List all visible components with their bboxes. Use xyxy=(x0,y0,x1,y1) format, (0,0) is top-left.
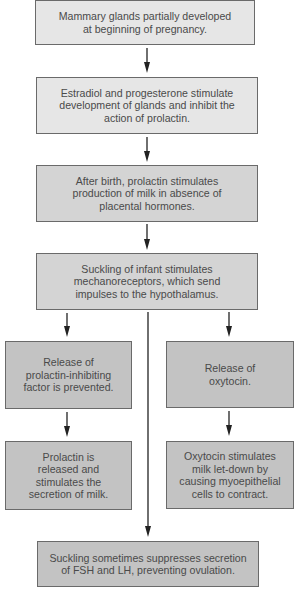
node-text: Suckling of infant stimulates mechanorec… xyxy=(74,263,221,301)
node-text: Release of prolactin-inhibiting factor i… xyxy=(23,356,113,394)
node-text: Release of oxytocin. xyxy=(205,362,256,387)
node-prolactin-released: Prolactin is released and stimulates the… xyxy=(5,441,132,510)
node-text: Estradiol and progesterone stimulate dev… xyxy=(59,87,235,125)
arrowhead-n1-n2 xyxy=(144,62,150,73)
node-text: Oxytocin stimulates milk let-down by cau… xyxy=(179,450,280,500)
node-oxytocin-letdown: Oxytocin stimulates milk let-down by cau… xyxy=(166,441,294,509)
arrowhead-n4-n9 xyxy=(145,526,151,537)
arrowhead-n4-n6 xyxy=(226,326,232,337)
node-text: Suckling sometimes suppresses secretion … xyxy=(49,552,246,577)
arrowhead-n4-n5 xyxy=(64,326,70,337)
node-text: Mammary glands partially developed at be… xyxy=(59,10,232,35)
node-after-birth: After birth, prolactin stimulates produc… xyxy=(36,165,258,222)
node-suppress-fsh-lh: Suckling sometimes suppresses secretion … xyxy=(37,541,259,587)
node-mammary-glands: Mammary glands partially developed at be… xyxy=(35,0,255,45)
arrowhead-n2-n3 xyxy=(144,151,150,162)
arrowhead-n3-n4 xyxy=(144,239,150,250)
node-oxytocin-release: Release of oxytocin. xyxy=(166,341,294,408)
node-estradiol-progesterone: Estradiol and progesterone stimulate dev… xyxy=(36,77,258,134)
node-text: After birth, prolactin stimulates produc… xyxy=(73,175,222,213)
arrowhead-n5-n7 xyxy=(64,426,70,437)
arrowhead-n6-n8 xyxy=(226,425,232,436)
node-suckling-infant: Suckling of infant stimulates mechanorec… xyxy=(36,253,258,310)
node-pif-prevented: Release of prolactin-inhibiting factor i… xyxy=(5,341,132,409)
node-text: Prolactin is released and stimulates the… xyxy=(29,451,108,501)
